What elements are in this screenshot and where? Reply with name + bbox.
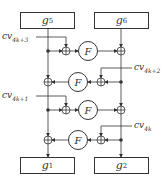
f-function-4: F — [68, 130, 88, 150]
xor-icon — [97, 78, 105, 86]
key-subscript: 4k+3 — [12, 36, 28, 43]
key-subscript: 4k+1 — [12, 95, 28, 102]
box-g2: g2 — [94, 157, 149, 174]
round-key-label-4: cv4k — [134, 120, 152, 132]
box-subscript: 5 — [49, 17, 53, 25]
box-label: g — [42, 159, 49, 172]
xor-icon — [44, 78, 52, 86]
box-label: g — [42, 14, 49, 27]
xor-icon — [97, 136, 105, 144]
box-subscript: 6 — [123, 17, 127, 25]
xor-icon — [117, 47, 125, 55]
box-g1: g1 — [20, 157, 75, 174]
key-base: cv — [134, 120, 144, 130]
xor-icon — [62, 106, 70, 114]
xor-icon — [44, 136, 52, 144]
key-subscript: 4k+2 — [144, 67, 160, 74]
key-subscript: 4k — [144, 125, 151, 132]
box-g5: g5 — [20, 12, 75, 29]
f-function-2: F — [68, 72, 88, 92]
box-label: g — [116, 159, 123, 172]
f-function-1: F — [78, 41, 98, 61]
xor-icon — [117, 106, 125, 114]
round-key-label-3: cv4k+1 — [2, 90, 28, 102]
round-key-label-2: cv4k+2 — [134, 62, 160, 74]
box-subscript: 2 — [123, 162, 127, 170]
key-base: cv — [2, 90, 12, 100]
xor-icon — [62, 47, 70, 55]
box-subscript: 1 — [49, 162, 53, 170]
key-base: cv — [2, 31, 12, 41]
box-label: g — [116, 14, 123, 27]
box-g6: g6 — [94, 12, 149, 29]
f-function-3: F — [78, 100, 98, 120]
key-base: cv — [134, 62, 144, 72]
round-key-label-1: cv4k+3 — [2, 31, 28, 43]
